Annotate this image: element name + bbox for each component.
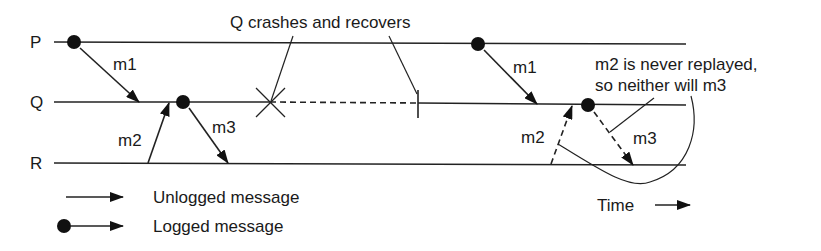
message-m2-replay-label: m2 [521,128,545,147]
message-m3-label: m3 [212,118,236,137]
note-line-1: m2 is never replayed, [595,55,758,74]
message-m1-label: m1 [113,55,137,74]
legend-unlogged-label: Unlogged message [153,188,299,207]
legend: Unlogged message Logged message [57,188,299,236]
recovery-pointer [389,36,417,94]
legend-logged-label: Logged message [153,217,283,236]
note-loop-pointer [558,96,694,184]
message-m2-replay-arrow [551,106,572,164]
process-label-q: Q [30,93,43,112]
process-label-p: P [30,33,41,52]
message-m1-replay-label: m1 [513,58,537,77]
timeline-p [54,42,686,44]
logged-dot-icon [176,95,190,109]
message-m2-arrow [148,103,169,163]
legend-logged-dot-icon [57,219,71,233]
logged-dot-icon [471,37,485,51]
crash-annotation: Q crashes and recovers [230,13,410,32]
process-label-r: R [30,154,42,173]
message-logging-diagram: P Q R Q crashes and recovers m1 m2 m3 m1… [0,0,821,251]
logged-dot-icon [67,35,81,49]
message-m3-replay-arrow [594,112,633,165]
message-m2-label: m2 [118,131,142,150]
message-m3-replay-label: m3 [633,129,657,148]
logged-dot-icon [581,98,595,112]
timeline-q-down [270,102,418,103]
note-pointer [610,98,654,132]
note-line-2: so neither will m3 [595,76,726,95]
time-label: Time [597,196,634,215]
